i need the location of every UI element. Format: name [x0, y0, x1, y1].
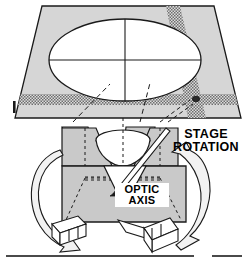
stage-block-left [52, 216, 86, 245]
bottom-rule-right-segment [212, 255, 242, 257]
stage-rotation-label: STAGE ROTATION [166, 128, 246, 154]
bottom-rule-left-segment [6, 255, 194, 257]
melatope-dot [192, 96, 199, 102]
stage-rotation-line-2: ROTATION [166, 141, 246, 154]
optic-axis-label: OPTIC AXIS [115, 183, 169, 207]
plate-tick-marker [13, 101, 16, 113]
projection-screen [13, 6, 241, 118]
stage-rotation-line-1: STAGE [166, 128, 246, 141]
stage-block-right [118, 218, 178, 252]
optic-axis-line-2: AXIS [117, 195, 167, 206]
figure-conoscopic-stage-rotation: STAGE ROTATION OPTIC AXIS [0, 0, 248, 264]
bottom-rule [6, 255, 242, 257]
